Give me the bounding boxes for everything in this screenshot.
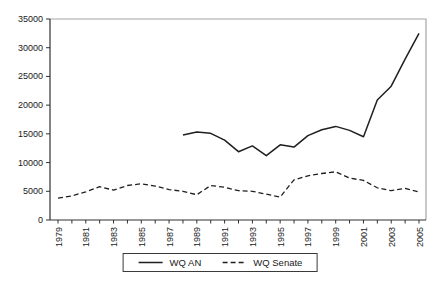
x-tick-label: 2003 xyxy=(387,227,397,247)
legend-item-wq-an: WQ AN xyxy=(138,257,202,268)
legend: WQ AN WQ Senate xyxy=(123,253,318,272)
y-tick-label: 10000 xyxy=(18,158,43,168)
x-tick-label: 1993 xyxy=(248,227,258,247)
y-tick-label: 15000 xyxy=(18,129,43,139)
line-chart: 0500010000150002000025000300003500019791… xyxy=(0,0,440,250)
y-tick-label: 0 xyxy=(38,215,43,225)
x-tick-label: 2001 xyxy=(359,227,369,247)
chart-container: 0500010000150002000025000300003500019791… xyxy=(0,0,440,288)
x-tick-label: 1995 xyxy=(276,227,286,247)
y-tick-label: 25000 xyxy=(18,71,43,81)
x-tick-label: 1989 xyxy=(192,227,202,247)
x-tick-label: 1983 xyxy=(109,227,119,247)
x-tick-label: 1981 xyxy=(81,227,91,247)
x-tick-label: 1991 xyxy=(220,227,230,247)
solid-line-sample-icon xyxy=(138,258,164,267)
x-tick-label: 1985 xyxy=(137,227,147,247)
x-tick-label: 1999 xyxy=(331,227,341,247)
x-tick-label: 1987 xyxy=(165,227,175,247)
series-wq-senate-line xyxy=(58,172,419,198)
series-wq-an-line xyxy=(183,33,419,155)
legend-label-wq-senate: WQ Senate xyxy=(253,257,302,268)
x-tick-label: 1997 xyxy=(303,227,313,247)
y-tick-label: 30000 xyxy=(18,43,43,53)
y-tick-label: 35000 xyxy=(18,14,43,24)
legend-label-wq-an: WQ AN xyxy=(170,257,202,268)
x-tick-label: 1979 xyxy=(54,227,64,247)
legend-item-wq-senate: WQ Senate xyxy=(221,257,302,268)
x-tick-label: 2005 xyxy=(415,227,425,247)
y-tick-label: 5000 xyxy=(23,186,43,196)
y-tick-label: 20000 xyxy=(18,100,43,110)
dashed-line-sample-icon xyxy=(221,258,247,267)
